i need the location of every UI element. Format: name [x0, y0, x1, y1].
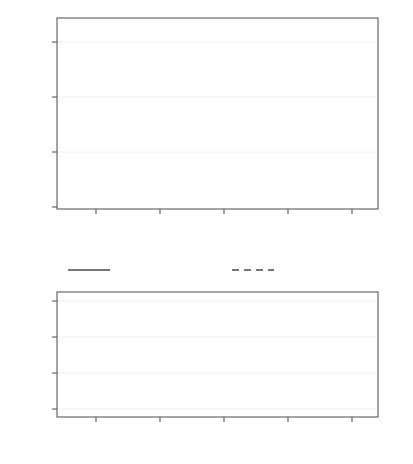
top-panel-x-ticks [96, 209, 352, 214]
bottom-panel-frame [57, 292, 378, 417]
two-panel-chart [0, 0, 413, 464]
bottom-panel-y-ticks [52, 301, 57, 409]
bottom-panel-x-ticks [96, 417, 352, 422]
bottom-panel [52, 292, 378, 422]
bottom-panel-gridlines [57, 301, 378, 409]
top-panel-frame [57, 18, 378, 209]
top-panel-y-ticks [52, 42, 57, 207]
top-panel-gridlines [57, 42, 378, 152]
figure-container [0, 0, 413, 464]
top-panel [52, 18, 378, 214]
